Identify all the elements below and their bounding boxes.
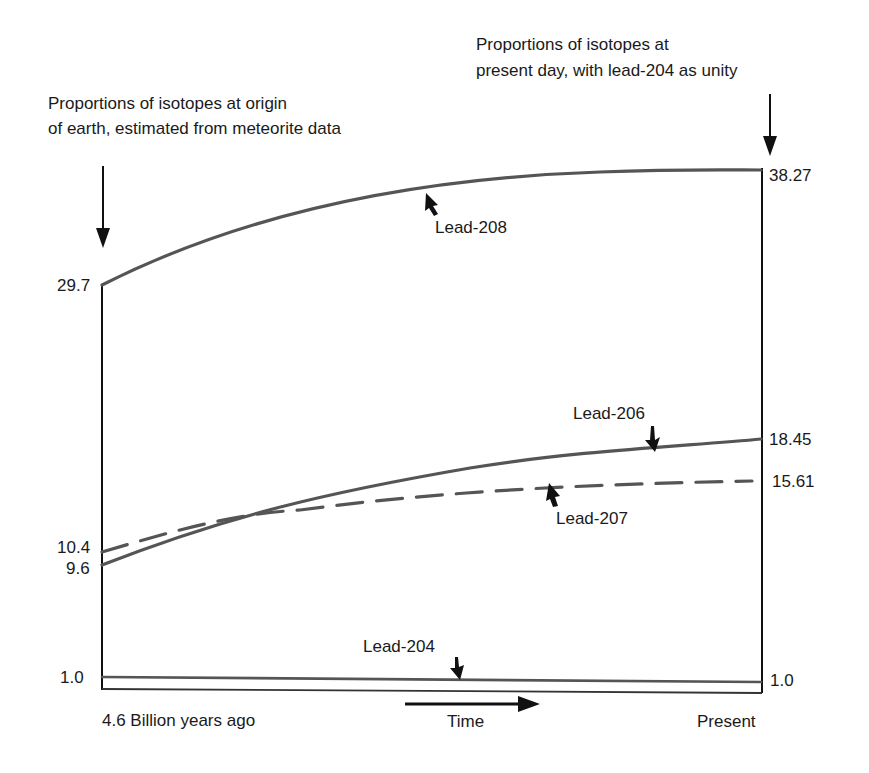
lead-206-label: Lead-206 <box>573 404 645 423</box>
lead-206-start-value: 9.6 <box>66 559 90 578</box>
lead-204-start-value: 1.0 <box>60 668 84 687</box>
right-down-arrow-icon <box>763 94 777 156</box>
lead-208-label: Lead-208 <box>435 218 507 237</box>
lead-204-curve <box>102 677 761 682</box>
lead-207-label: Lead-207 <box>556 509 628 528</box>
lead-207-end-value: 15.61 <box>772 472 815 491</box>
lead-204-end-value: 1.0 <box>770 671 794 690</box>
right-annotation-line-1: Proportions of isotopes at <box>476 35 669 54</box>
x-start-label: 4.6 Billion years ago <box>102 711 255 730</box>
bottom-baseline <box>102 689 762 693</box>
lead-206-curve <box>102 439 761 565</box>
right-annotation-line-2: present day, with lead-204 as unity <box>476 61 738 80</box>
lead-207-curve <box>102 481 752 552</box>
lead-208-curve <box>102 170 761 285</box>
time-arrow-icon <box>405 696 540 712</box>
left-annotation-line-1: Proportions of isotopes at origin <box>48 94 287 113</box>
isotope-proportions-chart: Proportions of isotopes at present day, … <box>0 0 869 773</box>
x-end-label: Present <box>697 712 756 731</box>
lead-208-start-value: 29.7 <box>57 276 90 295</box>
lead-208-pointer-arrow-icon <box>425 193 438 216</box>
left-down-arrow-icon <box>96 166 110 248</box>
lead-206-end-value: 18.45 <box>769 430 812 449</box>
x-axis-title: Time <box>447 712 484 731</box>
left-annotation-line-2: of earth, estimated from meteorite data <box>48 119 341 138</box>
lead-204-label: Lead-204 <box>363 637 435 656</box>
lead-208-end-value: 38.27 <box>769 166 812 185</box>
lead-204-pointer-arrow-icon <box>450 657 464 680</box>
lead-207-start-value: 10.4 <box>57 538 90 557</box>
